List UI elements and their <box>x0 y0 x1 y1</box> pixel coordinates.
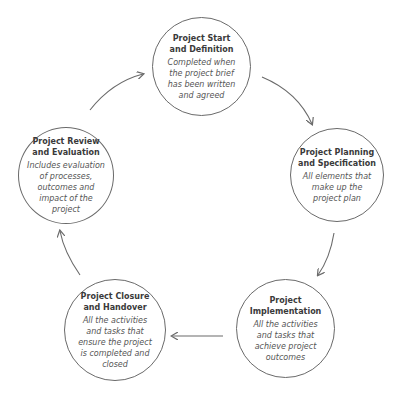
arrow-planning-to-implementation <box>318 233 334 275</box>
arrow-start-to-planning <box>262 77 312 124</box>
stage-description: Completed when the project brief has bee… <box>168 57 236 101</box>
stage-planning-specification: Project Planning and Specification All e… <box>290 128 384 222</box>
stage-title: Project Start and Definition <box>170 33 234 55</box>
stage-title: Project Closure and Handover <box>81 291 150 313</box>
stage-review-evaluation: Project Review and Evaluation Includes e… <box>18 127 114 224</box>
project-lifecycle-diagram: Project Start and Definition Completed w… <box>0 0 396 394</box>
stage-title: Project Implementation <box>250 295 322 317</box>
arrow-closure-to-review <box>60 231 80 275</box>
stage-title: Project Review and Evaluation <box>32 136 99 158</box>
stage-closure-handover: Project Closure and Handover All the act… <box>64 279 166 381</box>
stage-description: Includes evaluation of processes, outcom… <box>27 160 105 215</box>
stage-title: Project Planning and Specification <box>298 147 376 169</box>
stage-description: All the activities and tasks that ensure… <box>78 315 152 370</box>
arrow-review-to-start <box>90 74 143 110</box>
stage-description: All the activities and tasks that achiev… <box>253 319 317 363</box>
stage-implementation: Project Implementation All the activitie… <box>236 279 335 378</box>
stage-start-definition: Project Start and Definition Completed w… <box>152 17 251 116</box>
stage-description: All elements that make up the project pl… <box>303 171 371 204</box>
